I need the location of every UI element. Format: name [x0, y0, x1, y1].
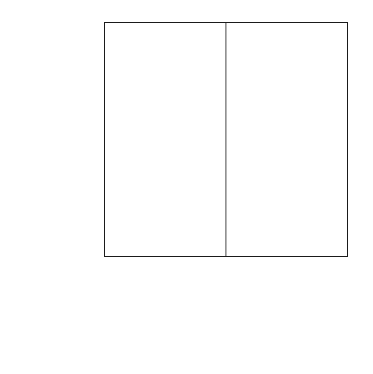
x-axis-titles: [104, 280, 348, 296]
chart-figure: [0, 0, 373, 374]
bar-rows: [105, 23, 347, 256]
plot-area: [104, 22, 348, 257]
x-axis-tick-labels: [104, 264, 348, 278]
x-axis-bottom-ticks: [104, 257, 348, 263]
y-axis-category-labels: [0, 22, 100, 257]
